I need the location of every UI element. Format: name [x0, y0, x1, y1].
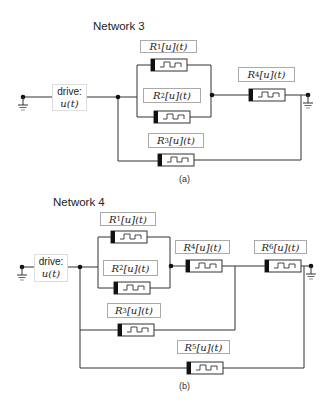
memristor-r2-n3: [154, 111, 190, 123]
caption-b: (b): [179, 381, 190, 391]
label-r1-n4: R1[u](t): [100, 212, 156, 226]
drive-label: drive:: [57, 86, 81, 98]
label-r3-n3: R3[u](t): [148, 133, 204, 148]
drive-source-n3: drive: u(t): [52, 84, 87, 111]
label-r5-n4: R5[u](t): [177, 340, 230, 354]
drive-label: drive:: [39, 256, 63, 268]
label-r2-n4: R2[u](t): [103, 260, 158, 276]
memristor-r2-n4: [114, 282, 150, 294]
memristor-r3-n4: [118, 324, 154, 336]
memristor-r5-n4: [187, 362, 223, 374]
drive-signal: u(t): [60, 98, 78, 110]
label-r2-n3: R2[u](t): [143, 88, 201, 103]
ground-right-n3: [303, 95, 313, 108]
ground-left-n4: [17, 267, 27, 280]
network-4-title: Network 4: [53, 196, 105, 208]
memristor-r6-n4: [265, 260, 301, 272]
caption-a: (a): [179, 174, 190, 184]
memristor-r1-n4: [111, 231, 147, 243]
ground-right-n4: [306, 266, 316, 279]
drive-source-n4: drive: u(t): [34, 254, 68, 282]
label-r6-n4: R6[u](t): [254, 240, 307, 254]
label-r4-n4: R4[u](t): [175, 240, 230, 254]
circuit-wires: [0, 0, 335, 403]
memristor-r1-n3: [151, 59, 187, 71]
label-r1-n3: R1[u](t): [140, 40, 197, 53]
network-3-title: Network 3: [93, 20, 145, 32]
memristor-r4-n4: [186, 260, 222, 272]
label-r4-n3: R4[u](t): [238, 67, 295, 82]
memristor-r4-n3: [249, 89, 285, 101]
memristor-r3-n3: [158, 154, 194, 166]
label-r3-n4: R3[u](t): [107, 303, 161, 318]
drive-signal: u(t): [42, 268, 60, 280]
ground-left-n3: [18, 97, 28, 110]
